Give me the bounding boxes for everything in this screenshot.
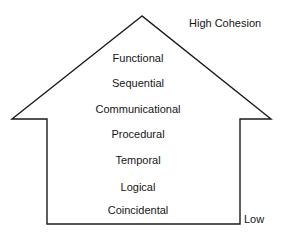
- cohesion-level-procedural: Procedural: [0, 128, 276, 141]
- low-cohesion-label: Low: [244, 213, 264, 226]
- cohesion-level-functional: Functional: [0, 52, 276, 65]
- high-cohesion-label: High Cohesion: [189, 17, 261, 30]
- house-outline-shape: [0, 0, 282, 236]
- cohesion-level-logical: Logical: [0, 181, 276, 194]
- cohesion-level-temporal: Temporal: [0, 154, 276, 167]
- cohesion-level-communicational: Communicational: [0, 103, 276, 116]
- cohesion-diagram: High Cohesion Functional Sequential Comm…: [0, 0, 282, 236]
- cohesion-level-sequential: Sequential: [0, 77, 276, 90]
- cohesion-level-coincidental: Coincidental: [0, 204, 276, 217]
